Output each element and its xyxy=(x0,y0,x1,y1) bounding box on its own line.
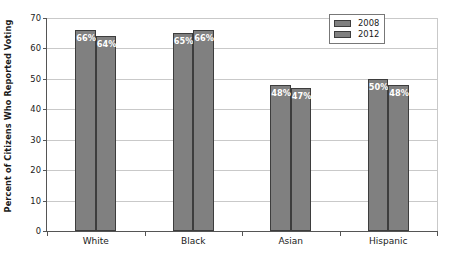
y-axis-tick-mark xyxy=(43,18,47,19)
bar-value-label: 66% xyxy=(76,34,95,42)
bar-white-2008[interactable]: 66% xyxy=(75,30,96,231)
bar-asian-2008[interactable]: 48% xyxy=(270,85,291,231)
bar-black-2008[interactable]: 65% xyxy=(173,33,194,231)
x-axis-tick-mark xyxy=(47,231,48,236)
y-axis-tick-label: 70 xyxy=(19,13,41,23)
bar-white-2012[interactable]: 64% xyxy=(96,36,117,231)
legend-swatch-icon xyxy=(334,31,351,38)
y-axis-tick-mark xyxy=(43,48,47,49)
x-axis-tick-mark xyxy=(145,231,146,236)
bar-value-label: 48% xyxy=(389,89,408,97)
legend-label: 2012 xyxy=(358,30,379,38)
x-axis-category-label-white: White xyxy=(83,236,109,246)
chart-legend: 20082012 xyxy=(329,14,385,44)
y-axis-tick-mark xyxy=(43,201,47,202)
y-axis-tick-labels: 706050403020100 xyxy=(18,18,41,231)
y-axis-tick-label: 30 xyxy=(19,135,41,145)
plot-area: 66%64%65%66%48%47%50%48% xyxy=(47,18,437,231)
bar-hispanic-2012[interactable]: 48% xyxy=(388,85,409,231)
plot-right-edge xyxy=(437,18,438,231)
legend-label: 2008 xyxy=(358,19,379,27)
y-axis-tick-label: 10 xyxy=(19,196,41,206)
bar-black-2012[interactable]: 66% xyxy=(193,30,214,231)
bar-value-label: 47% xyxy=(292,92,311,100)
y-axis-tick-mark xyxy=(43,79,47,80)
y-axis-tick-mark xyxy=(43,170,47,171)
y-axis-tick-label: 20 xyxy=(19,165,41,175)
x-axis-category-label-black: Black xyxy=(181,236,205,246)
y-axis-tick-mark xyxy=(43,140,47,141)
legend-swatch-icon xyxy=(334,20,351,27)
bar-value-label: 50% xyxy=(369,83,388,91)
bar-value-label: 48% xyxy=(271,89,290,97)
legend-item-2012[interactable]: 2012 xyxy=(334,29,379,40)
y-axis-tick-label: 60 xyxy=(19,43,41,53)
y-axis-title: Percent of Citizens Who Reported Voting xyxy=(0,0,16,231)
x-axis-tick-mark xyxy=(242,231,243,236)
y-axis-title-text: Percent of Citizens Who Reported Voting xyxy=(3,19,13,212)
y-axis-tick-label: 40 xyxy=(19,104,41,114)
y-axis-tick-label: 0 xyxy=(19,226,41,236)
bar-hispanic-2008[interactable]: 50% xyxy=(368,79,389,231)
bar-value-label: 66% xyxy=(194,34,213,42)
y-axis-tick-mark xyxy=(43,109,47,110)
x-axis-tick-mark xyxy=(437,231,438,236)
bar-asian-2012[interactable]: 47% xyxy=(291,88,312,231)
bar-value-label: 64% xyxy=(97,40,116,48)
y-axis-tick-label: 50 xyxy=(19,74,41,84)
x-axis-category-label-hispanic: Hispanic xyxy=(369,236,407,246)
x-axis-category-label-asian: Asian xyxy=(278,236,303,246)
x-axis-tick-mark xyxy=(340,231,341,236)
legend-item-2008[interactable]: 2008 xyxy=(334,18,379,29)
bar-value-label: 65% xyxy=(174,37,193,45)
